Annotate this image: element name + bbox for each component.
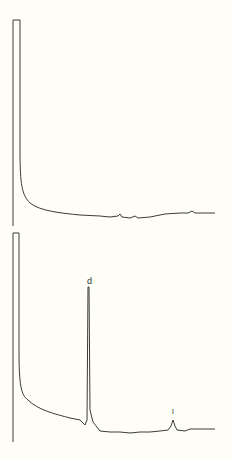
peak-label-l: l (172, 408, 174, 416)
bottom-trace (13, 233, 215, 442)
peak-label-d: d (87, 277, 92, 286)
top-trace (13, 20, 215, 226)
chromatogram-figure: d l (0, 0, 233, 458)
chromatogram-svg (0, 0, 233, 458)
